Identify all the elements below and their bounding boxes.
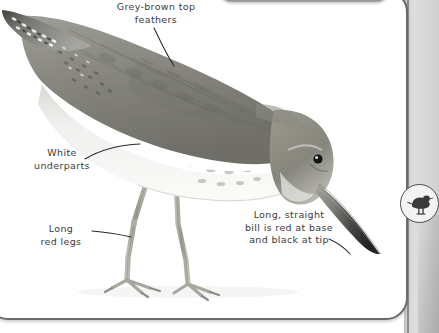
leader-line-top-feathers [154, 28, 174, 66]
adjacent-panel [218, 0, 390, 2]
annotation-label-white-underparts: White underparts [24, 147, 100, 172]
scapular-feathers [98, 39, 222, 114]
annotation-label-bill: Long, straight bill is red at base and b… [228, 209, 350, 247]
bird-upperparts [21, 16, 300, 164]
wing-coverts [57, 46, 113, 95]
page-card: Grey-brown top feathers White underparts… [0, 0, 408, 320]
bird-tail [2, 10, 92, 51]
bird-underparts [38, 84, 305, 202]
bird-leg-rear [174, 177, 219, 300]
annotation-label-red-legs: Long red legs [28, 223, 94, 248]
bird-eye [310, 154, 328, 171]
annotation-label-top-feathers: Grey-brown top feathers [104, 1, 208, 26]
leader-line-red-legs [92, 231, 131, 237]
field-guide-page: Grey-brown top feathers White underparts… [0, 0, 439, 333]
gutter-shadow [418, 215, 439, 333]
bird-head [270, 110, 334, 205]
tail-bars [11, 17, 57, 48]
species-badge[interactable] [400, 184, 439, 223]
breast-speckles [149, 132, 284, 186]
bird-leg-front [105, 178, 160, 297]
